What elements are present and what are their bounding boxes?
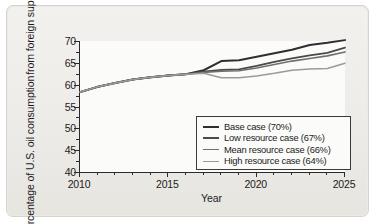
x-tick-minor [203, 172, 204, 175]
y-axis-title: Percentage of U.S. oil consumption from … [10, 41, 50, 172]
x-tick-label: 2015 [144, 178, 190, 190]
x-tick-minor [273, 172, 274, 175]
y-tick-label: 50 [56, 123, 76, 133]
x-tick-major [344, 172, 345, 177]
x-tick-label: 2025 [321, 178, 367, 190]
y-axis-tick-labels: 40455055606570 [56, 41, 76, 172]
x-axis-tick-labels: 2010201520202025 [79, 178, 344, 192]
y-tick-label: 45 [56, 145, 76, 155]
series-line [80, 52, 345, 92]
legend-swatch [203, 161, 219, 162]
legend-swatch [203, 137, 219, 139]
y-axis-title-line-1: Percentage of U.S. oil consumption [24, 76, 36, 224]
x-tick-minor [326, 172, 327, 175]
x-tick-minor [185, 172, 186, 175]
legend-item: Mean resource case (66%) [203, 144, 345, 156]
figure-root: Percentage of U.S. oil consumption from … [0, 0, 377, 224]
x-tick-major [167, 172, 168, 177]
legend-item: High resource case (64%) [203, 156, 345, 168]
x-tick-minor [238, 172, 239, 175]
y-tick-label: 60 [56, 80, 76, 90]
y-tick-label: 65 [56, 58, 76, 68]
series-line [80, 40, 345, 92]
y-tick-label: 55 [56, 102, 76, 112]
y-tick-label: 40 [56, 167, 76, 177]
chart-legend: Base case (70%)Low resource case (67%)Me… [196, 116, 351, 170]
x-tick-minor [150, 172, 151, 175]
x-tick-minor [291, 172, 292, 175]
legend-label: Low resource case (67%) [224, 133, 325, 143]
x-axis-title: Year [79, 192, 344, 204]
legend-swatch [203, 149, 219, 150]
x-tick-minor [132, 172, 133, 175]
y-tick-label: 70 [56, 36, 76, 46]
y-axis-title-line-2: from foreign suppliers [24, 0, 36, 75]
legend-swatch [203, 126, 219, 128]
legend-item: Base case (70%) [203, 121, 345, 133]
x-tick-label: 2020 [233, 178, 279, 190]
series-line [80, 63, 345, 92]
x-tick-minor [97, 172, 98, 175]
legend-item: Low resource case (67%) [203, 133, 345, 145]
legend-label: Mean resource case (66%) [224, 145, 331, 155]
x-tick-minor [309, 172, 310, 175]
legend-label: High resource case (64%) [224, 156, 326, 166]
x-tick-major [256, 172, 257, 177]
x-tick-major [79, 172, 80, 177]
x-tick-minor [220, 172, 221, 175]
x-tick-minor [114, 172, 115, 175]
x-tick-label: 2010 [56, 178, 102, 190]
legend-label: Base case (70%) [224, 122, 292, 132]
